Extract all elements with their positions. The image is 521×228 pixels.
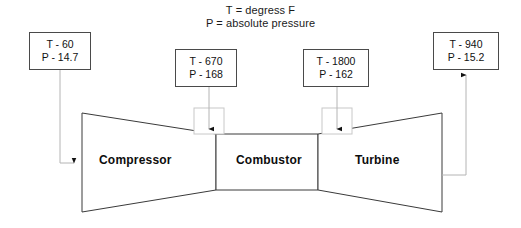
callout-turbine-exit-pressure: P - 15.2 xyxy=(434,51,498,64)
callout-combustor-exit-temperature: T - 1800 xyxy=(304,55,368,68)
callout-inlet-pressure: P - 14.7 xyxy=(30,51,90,64)
inlet-flow-leader xyxy=(60,70,74,163)
callout-turbine-exit-temperature: T - 940 xyxy=(434,38,498,51)
callout-compressor-exit-temperature: T - 670 xyxy=(176,55,236,68)
gas-turbine-engine-diagram: T = degress F P = absolute pressure xyxy=(0,0,521,228)
callout-compressor-exit-pressure: P - 168 xyxy=(176,68,236,81)
callout-turbine-exit: T - 940 P - 15.2 xyxy=(433,32,499,70)
callout-inlet-temperature: T - 60 xyxy=(30,38,90,51)
callout-combustor-exit: T - 1800 P - 162 xyxy=(303,49,369,87)
compressor-label: Compressor xyxy=(99,153,172,167)
combustor-label: Combustor xyxy=(236,153,302,167)
callout-combustor-exit-pressure: P - 162 xyxy=(304,68,368,81)
callout-compressor-exit: T - 670 P - 168 xyxy=(175,49,237,87)
callout-compressor-inlet: T - 60 P - 14.7 xyxy=(29,32,91,70)
turbine-label: Turbine xyxy=(355,153,400,167)
